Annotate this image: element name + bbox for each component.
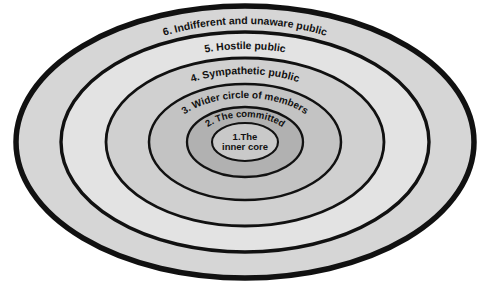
concentric-ellipse-diagram: 6. Indifferent and unaware public 5. Hos… [0,0,489,286]
diagram-canvas: 6. Indifferent and unaware public 5. Hos… [0,0,489,286]
ring-group-1[interactable]: 1.The inner core [212,123,278,161]
core-label-line-2: inner core [222,141,268,152]
